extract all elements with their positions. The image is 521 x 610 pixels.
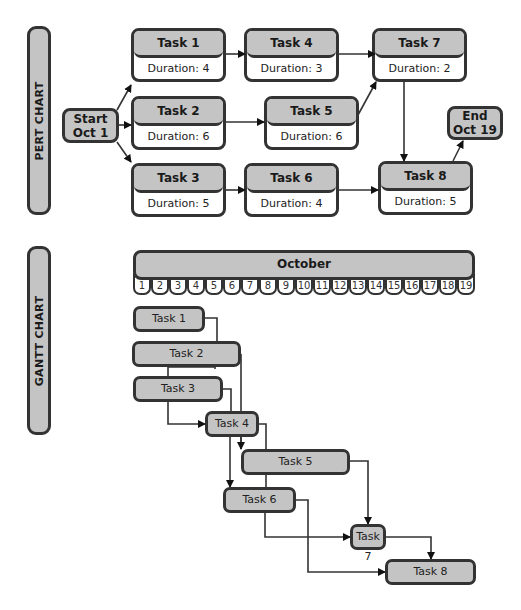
gantt-bar-task-8: Task 8 bbox=[385, 559, 476, 585]
gantt-bar-task-1: Task 1 bbox=[133, 306, 205, 332]
connector-lines bbox=[0, 0, 521, 610]
gantt-bar-task-4: Task 4 bbox=[205, 411, 259, 437]
gantt-bar-task-5: Task 5 bbox=[241, 449, 350, 475]
gantt-bar-task-2: Task 2 bbox=[132, 341, 241, 367]
gantt-bar-task-3: Task 3 bbox=[133, 376, 223, 402]
gantt-bar-task-6: Task 6 bbox=[223, 487, 296, 513]
gantt-month-header: October bbox=[133, 250, 475, 280]
gantt-bar-task-7: Task 7 bbox=[350, 524, 386, 550]
